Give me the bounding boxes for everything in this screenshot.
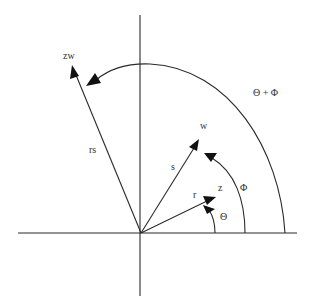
label-r: r bbox=[193, 189, 197, 200]
label-s: s bbox=[171, 161, 175, 172]
label-rs: rs bbox=[89, 144, 96, 155]
label-z: z bbox=[218, 182, 223, 193]
vector-zw bbox=[70, 65, 141, 233]
label-phi: Φ bbox=[240, 182, 247, 193]
label-w: w bbox=[200, 120, 208, 131]
label-zw: zw bbox=[63, 50, 75, 61]
label-theta-plus-phi: Θ + Φ bbox=[253, 87, 278, 98]
label-theta: Θ bbox=[220, 211, 227, 222]
complex-plane-diagram: zw rs w s z r Θ Φ Θ + Φ bbox=[0, 0, 311, 306]
angle-theta-arc bbox=[203, 205, 215, 233]
